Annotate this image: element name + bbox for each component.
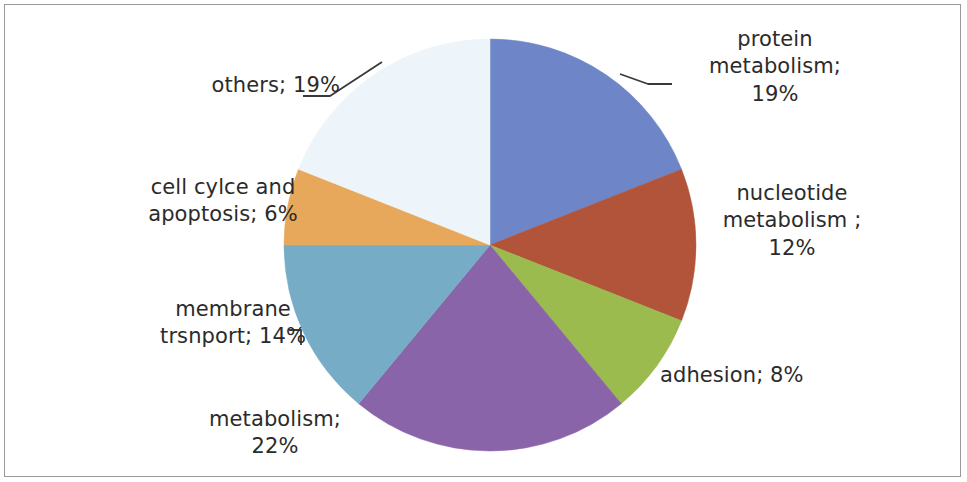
pie-label-protein-metabolism: protein metabolism; 19%: [660, 26, 890, 108]
pie-chart-figure: protein metabolism; 19% nucleotide metab…: [0, 0, 967, 482]
pie-label-cell-cylce-and-apoptosis: cell cylce and apoptosis; 6%: [108, 174, 338, 229]
pie-label-metabolism: metabolism; 22%: [160, 406, 390, 461]
pie-label-others: others; 19%: [160, 72, 340, 99]
pie-label-adhesion: adhesion; 8%: [660, 362, 890, 389]
pie-slice-group: [284, 39, 696, 451]
pie-label-membrane-trsnport: membrane trsnport; 14%: [118, 296, 348, 351]
pie-label-nucleotide-metabolism: nucleotide metabolism ; 12%: [672, 180, 912, 262]
